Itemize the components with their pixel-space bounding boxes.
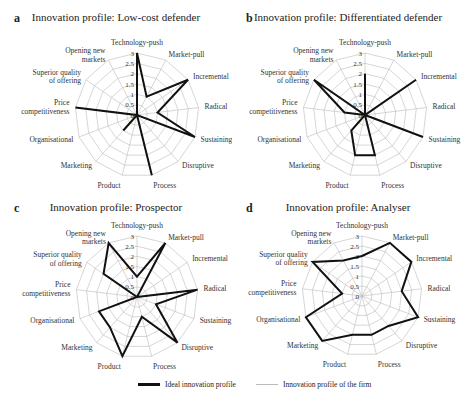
tick-label: 1 [356,273,360,281]
axis-label: Market-pull [393,233,429,242]
panel-analyser: d Innovation profile: Analyser 00.511.52… [232,190,464,380]
axis-label: Superior qualityof offering [32,68,81,86]
axis-label: Pricecompetitiveness [249,98,298,116]
tick-label: 2.5 [125,243,134,251]
axis-label: Product [323,360,347,369]
axis-label: Market-pull [169,50,205,59]
axis-label: Incremental [192,254,228,263]
axis-label: Marketing [287,341,318,350]
axis-label: Product [98,362,122,371]
axis-label: Product [97,181,121,190]
legend-item-firm: Innovation profile of the firm [256,380,371,389]
tick-label: 3 [131,233,135,241]
axis-label: Process [381,181,404,190]
axis-label: Technology-push [111,221,163,230]
tick-label: 1.5 [125,81,134,89]
axis-label: Radical [205,102,228,111]
axis-label: Disruptive [406,341,438,350]
axis-label: Superior qualityof offering [260,68,309,86]
radar-chart: 00.511.522.53Technology-pushMarket-pullI… [232,190,464,390]
axis-label: Process [378,360,401,369]
panel-differentiated-defender: b Innovation profile: Differentiated def… [232,0,464,190]
axis-label: Sustaining [200,316,232,325]
thin-line-swatch-icon [256,384,278,385]
tick-label: 2.5 [350,243,359,251]
axis-label: Incremental [193,72,229,81]
axis-label: Disruptive [410,161,442,170]
panel-prospector: c Innovation profile: Prospector 00.511.… [0,190,232,380]
axis-label: Superior qualityof offering [33,250,82,268]
tick-label: 3 [359,50,363,58]
axis-label: Radical [433,102,456,111]
axis-label: Incremental [421,72,457,81]
legend-item-ideal: Ideal innovation profile [138,380,236,389]
panel-low-cost-defender: a Innovation profile: Low-cost defender … [0,0,232,190]
axis-label: Opening newmarkets [291,229,332,247]
tick-label: 1 [131,91,135,99]
axis-label: Technology-push [336,221,388,230]
tick-label: 1 [359,91,363,99]
axis-label: Organisational [29,135,73,144]
thick-line-swatch-icon [138,383,160,386]
tick-label: 2 [359,70,363,78]
grid-spoke [362,243,390,296]
axis-label: Radical [428,284,451,293]
legend: Ideal innovation profile Innovation prof… [0,380,464,394]
radar-chart: 00.511.522.53Technology-pushMarket-pullI… [0,190,232,390]
tick-label: 1.5 [350,263,359,271]
tick-label: 3 [131,50,135,58]
axis-label: Pricecompetitiveness [248,279,297,297]
axis-label: Radical [204,284,227,293]
axis-label: Disruptive [181,343,213,352]
legend-label: Ideal innovation profile [165,380,236,389]
tick-label: 3 [356,233,360,241]
axis-label: Marketing [61,161,92,170]
grid-spoke [365,60,394,115]
ideal-profile-line [99,243,198,356]
axis-label: Superior qualityof offering [259,250,308,268]
axis-label: Opening newmarkets [293,46,334,64]
axis-label: Product [325,181,349,190]
tick-label: 2 [131,70,135,78]
axis-label: Marketing [61,343,92,352]
tick-label: 1.5 [353,81,362,89]
axis-label: Marketing [289,161,320,170]
tick-label: 0.5 [125,101,134,109]
axis-label: Pricecompetitiveness [21,98,70,116]
axis-label: Incremental [416,254,452,263]
axis-label: Organisational [256,315,300,324]
tick-label: 2.5 [125,60,134,68]
axis-label: Technology-push [111,38,163,47]
axis-label: Market-pull [397,50,433,59]
axis-label: Opening newmarkets [66,229,107,247]
axis-label: Process [153,362,176,371]
axis-label: Process [153,181,176,190]
axis-label: Opening newmarkets [65,46,106,64]
axis-label: Disruptive [182,161,214,170]
axis-label: Technology-push [339,38,391,47]
axis-label: Pricecompetitiveness [22,280,71,298]
ideal-profile-line [75,53,195,175]
tick-label: 0.5 [350,283,359,291]
tick-label: 2.5 [353,60,362,68]
radar-chart: 00.511.522.53Technology-pushMarket-pullI… [232,0,464,200]
tick-label: 0 [356,293,360,301]
axis-label: Organisational [257,135,301,144]
axis-label: Sustaining [424,315,456,324]
axis-label: Sustaining [429,135,461,144]
radar-chart: 00.511.522.53Technology-pushMarket-pullI… [0,0,232,200]
tick-label: 2 [131,253,135,261]
legend-label: Innovation profile of the firm [283,380,371,389]
axis-label: Organisational [30,316,74,325]
axis-label: Sustaining [201,135,232,144]
axis-label: Market-pull [168,233,204,242]
